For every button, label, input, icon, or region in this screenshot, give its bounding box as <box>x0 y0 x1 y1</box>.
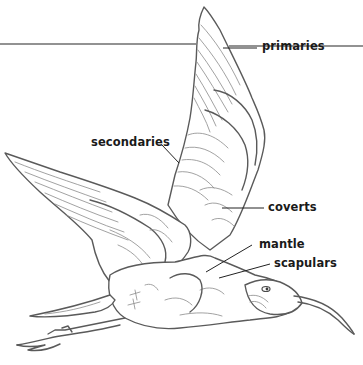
tail-and-legs <box>17 295 125 351</box>
bird-head <box>245 280 354 334</box>
label-mantle: mantle <box>259 239 305 251</box>
label-primaries: primaries <box>262 41 325 53</box>
bird-anatomy-diagram: primaries secondaries coverts mantle sca… <box>0 0 363 365</box>
label-coverts: coverts <box>268 202 317 214</box>
bird-illustration <box>0 0 363 365</box>
label-secondaries: secondaries <box>91 137 170 149</box>
bill <box>294 296 354 334</box>
label-scapulars: scapulars <box>274 258 337 270</box>
